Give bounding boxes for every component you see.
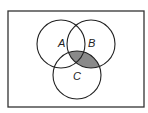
label-c: C: [73, 70, 81, 82]
venn-diagram: A B C: [0, 0, 148, 113]
label-a: A: [57, 37, 65, 49]
label-b: B: [88, 37, 95, 49]
